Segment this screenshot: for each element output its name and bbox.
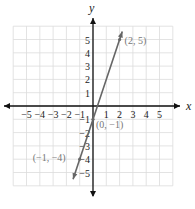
y-tick-label: −1	[79, 114, 90, 125]
x-arrow-right-icon	[174, 103, 180, 109]
y-tick-label: 1	[85, 88, 90, 99]
y-arrow-up-icon	[90, 18, 96, 24]
axes	[4, 18, 180, 197]
data-point	[78, 158, 81, 161]
y-tick-label: 3	[85, 61, 90, 72]
line-arrow-icon	[118, 32, 123, 38]
point-label: (−1, −4)	[33, 152, 66, 164]
y-tick-label: 2	[85, 74, 90, 85]
point-label: (0, −1)	[96, 119, 123, 131]
line-arrow-icon	[73, 173, 78, 179]
y-arrow-down-icon	[90, 191, 96, 197]
y-tick-label: 4	[85, 48, 90, 59]
data-point	[91, 118, 94, 121]
data-line	[73, 32, 122, 180]
x-tick-label: 4	[144, 109, 149, 120]
point-label: (2, 5)	[125, 35, 147, 47]
x-axis-label: x	[185, 99, 192, 113]
x-arrow-left-icon	[4, 103, 10, 109]
coordinate-plane: −5−4−3−2−11234554321−1−2−3−4−5 (2, 5)(0,…	[0, 0, 195, 209]
data-point	[118, 38, 121, 41]
x-tick-label: 3	[130, 109, 135, 120]
y-tick-label: −5	[79, 168, 90, 179]
x-tick-label: −4	[34, 109, 45, 120]
y-tick-label: 5	[85, 35, 90, 46]
y-axis-label: y	[88, 1, 95, 15]
x-tick-label: −5	[21, 109, 32, 120]
x-tick-label: −2	[61, 109, 72, 120]
x-tick-label: −3	[48, 109, 59, 120]
x-tick-label: 5	[157, 109, 162, 120]
